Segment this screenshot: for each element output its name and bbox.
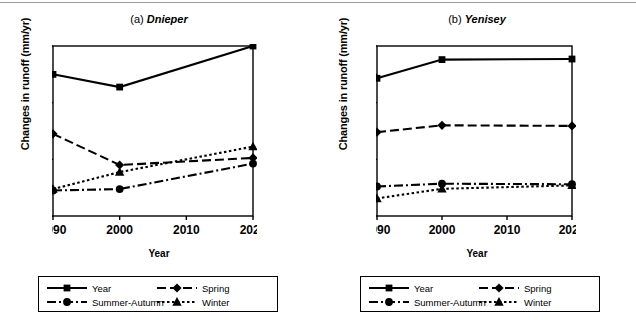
x-tick-label: 2000	[106, 223, 133, 237]
panel-b-legend-svg: YearSpringSummer-AutumnWinter	[361, 277, 599, 311]
panel-b-svg: 0501001502002503001990200020102020	[376, 44, 576, 244]
series-line-year	[377, 59, 572, 78]
series-marker-year	[376, 75, 380, 82]
legend-label-spring: Spring	[524, 283, 551, 294]
panel-a-title-name: Dnieper	[147, 13, 188, 25]
panel-a-svg: 0204060801001201990200020102020	[52, 44, 257, 244]
series-marker-year	[569, 56, 576, 63]
legend-label-winter: Winter	[202, 297, 229, 308]
legend-label-year: Year	[92, 283, 111, 294]
panel-b-title-prefix: (b)	[448, 13, 461, 25]
axis-frame	[377, 46, 572, 216]
legend-label-year: Year	[414, 283, 433, 294]
series-line-spring	[377, 125, 572, 132]
panel-a-legend-svg: YearSpringSummer-AutumnWinter	[39, 277, 277, 311]
panel-b-plot-area: 0501001502002503001990200020102020	[376, 44, 576, 244]
series-marker-year	[250, 44, 257, 49]
series-line-winter	[53, 147, 253, 190]
legend-label-summer-autumn: Summer-Autumn	[92, 297, 164, 308]
x-tick-label: 2010	[494, 223, 521, 237]
series-marker-spring	[567, 121, 576, 130]
series-marker-spring	[437, 121, 446, 130]
x-tick-label: 1990	[52, 223, 67, 237]
x-tick-label: 2000	[429, 223, 456, 237]
series-line-spring	[53, 134, 253, 165]
series-marker-spring	[376, 128, 382, 137]
panel-a-plot-area: 0204060801001201990200020102020	[52, 44, 257, 244]
x-tick-label: 2010	[173, 223, 200, 237]
series-marker-summer-autumn	[116, 185, 124, 193]
series-marker-spring	[52, 129, 58, 138]
x-tick-label: 2020	[240, 223, 257, 237]
legend-label-spring: Spring	[202, 283, 229, 294]
legend-marker-spring	[172, 283, 181, 292]
panel-dnieper: (a) Dnieper Changes in runoff (mm/yr) 02…	[0, 0, 318, 320]
series-marker-winter	[376, 194, 382, 203]
legend-label-winter: Winter	[524, 297, 551, 308]
series-line-summer-autumn	[53, 164, 253, 191]
series-marker-summer-autumn	[249, 160, 257, 168]
panel-b-y-axis-label: Changes in runoff (mm/yr)	[337, 0, 349, 179]
panel-b-title: (b) Yenisey	[318, 12, 636, 26]
series-marker-winter	[52, 184, 58, 193]
series-line-year	[53, 46, 253, 87]
legend-label-summer-autumn: Summer-Autumn	[414, 297, 486, 308]
series-line-winter	[377, 185, 572, 198]
legend-marker-year	[386, 285, 393, 292]
series-marker-summer-autumn	[376, 183, 381, 191]
panel-b-x-axis-label: Year	[318, 248, 636, 259]
panel-a-title-prefix: (a)	[130, 13, 143, 25]
panel-b-title-name: Yenisey	[465, 13, 506, 25]
panel-yenisey: (b) Yenisey Changes in runoff (mm/yr) 05…	[318, 0, 636, 320]
legend-marker-summer-autumn	[63, 298, 71, 306]
panel-a-title: (a) Dnieper	[0, 12, 318, 26]
x-tick-label: 1990	[376, 223, 391, 237]
legend-marker-year	[64, 285, 71, 292]
panel-a-x-axis-label: Year	[0, 248, 318, 259]
legend-marker-spring	[494, 283, 503, 292]
figure-two-panel-line-charts: (a) Dnieper Changes in runoff (mm/yr) 02…	[0, 0, 636, 320]
panel-b-legend: YearSpringSummer-AutumnWinter	[360, 276, 600, 312]
legend-marker-summer-autumn	[385, 298, 393, 306]
series-marker-year	[439, 56, 446, 63]
panel-a-legend: YearSpringSummer-AutumnWinter	[38, 276, 278, 312]
panel-a-y-axis-label: Changes in runoff (mm/yr)	[19, 0, 31, 179]
series-marker-year	[116, 84, 123, 91]
x-tick-label: 2020	[559, 223, 576, 237]
series-marker-winter	[248, 142, 257, 151]
series-marker-year	[52, 71, 56, 78]
